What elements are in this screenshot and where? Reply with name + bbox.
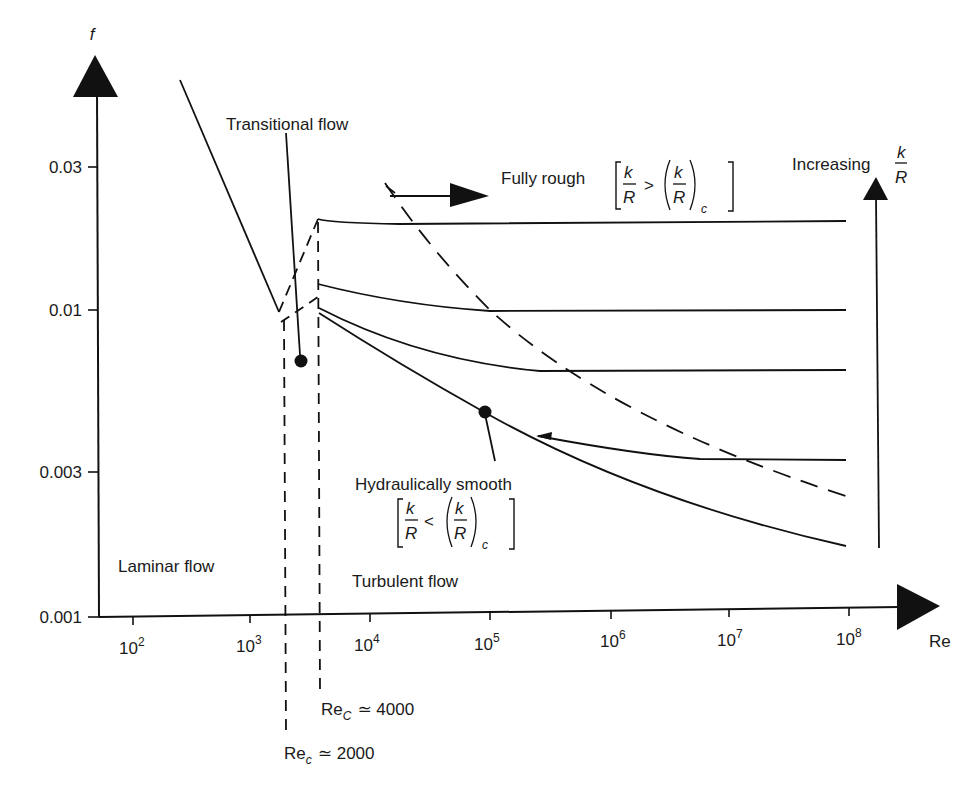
svg-text:<: <	[424, 512, 434, 531]
increasing-k-r-label: Increasing k R	[792, 143, 907, 187]
increasing-arrow-icon	[863, 177, 888, 200]
svg-text:k: k	[624, 163, 634, 182]
svg-text:Hydraulically smooth: Hydraulically smooth	[355, 475, 512, 494]
transitional-flow-label: Transitional flow	[226, 115, 349, 134]
y-tick-label: 0.03	[49, 158, 82, 177]
svg-text:Fully rough: Fully rough	[501, 169, 585, 188]
y-tick-label: 0.003	[39, 463, 82, 482]
x-tick-label: 102	[119, 635, 145, 658]
increasing-arrow	[876, 195, 879, 548]
y-axis: f 0.03 0.01 0.003 0.001	[39, 25, 118, 627]
y-axis-arrow-icon	[73, 55, 118, 97]
x-tick-label: 103	[236, 633, 262, 656]
svg-text:k: k	[674, 163, 684, 182]
transition-lower-dashed	[281, 297, 318, 322]
laminar-flow-label: Laminar flow	[118, 557, 215, 576]
x-axis-label: Re	[929, 632, 951, 651]
x-tick-label: 107	[717, 627, 743, 650]
rec-4000-label: ReC≃ 4000	[321, 700, 414, 723]
x-tick-label: 108	[836, 626, 862, 649]
y-tick-label: 0.01	[49, 301, 82, 320]
y-axis-label: f	[90, 25, 97, 44]
svg-text:c: c	[482, 538, 488, 552]
svg-text:R: R	[623, 188, 635, 207]
transitional-dot	[295, 355, 308, 368]
x-tick-label: 106	[600, 628, 626, 651]
rec-2000-dashed	[284, 320, 286, 732]
curve-4-arrow-icon	[536, 432, 552, 440]
fully-rough-arrow-icon	[450, 183, 489, 207]
svg-text:c: c	[701, 202, 707, 216]
x-axis: Re 102 103 104 105 106 107 108	[99, 584, 951, 658]
svg-text:R: R	[454, 524, 466, 543]
svg-text:k: k	[406, 499, 416, 518]
svg-text:>: >	[644, 176, 654, 195]
y-tick-label: 0.001	[39, 608, 82, 627]
smooth-leader	[485, 414, 495, 461]
svg-text:k: k	[897, 143, 907, 162]
smooth-dot	[479, 406, 492, 419]
turbulent-flow-label: Turbulent flow	[352, 572, 459, 591]
hydraulically-smooth-label: Hydraulically smooth k R < k R c	[355, 475, 514, 552]
x-tick-label: 104	[354, 632, 380, 655]
fully-rough-label: Fully rough k R > k R c	[501, 160, 733, 216]
rough-curve-1	[318, 219, 846, 224]
svg-text:k: k	[455, 499, 465, 518]
svg-text:R: R	[405, 524, 417, 543]
rough-curve-2	[318, 284, 846, 311]
svg-text:R: R	[895, 168, 907, 187]
x-axis-arrow-icon	[897, 584, 940, 630]
transitional-leader	[286, 133, 300, 355]
svg-text:R: R	[673, 188, 685, 207]
rec-2000-label: Rec≃ 2000	[284, 744, 375, 767]
transition-upper-dashed	[279, 219, 318, 312]
svg-text:Increasing: Increasing	[792, 155, 870, 174]
friction-factor-diagram: f 0.03 0.01 0.003 0.001 Re 102 103 104 1…	[0, 0, 965, 798]
rough-curve-4	[538, 436, 846, 460]
rec-4000-dashed	[318, 222, 320, 692]
x-tick-label: 105	[474, 631, 500, 654]
